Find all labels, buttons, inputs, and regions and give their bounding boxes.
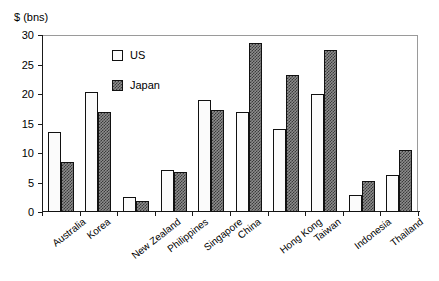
x-tick-mark (268, 212, 269, 216)
legend-entry-japan: Japan (112, 78, 160, 92)
bar-thailand-us (386, 175, 399, 212)
x-tick-mark (155, 212, 156, 216)
x-tick-mark (305, 212, 306, 216)
bar-indonesia-japan (362, 181, 375, 212)
y-tick-label: 10 (0, 148, 34, 159)
legend-swatch-us-icon (112, 50, 123, 61)
y-tick-label: 0 (0, 207, 34, 218)
bar-indonesia-us (349, 195, 362, 212)
bars-group (42, 35, 418, 212)
bar-singapore-us (198, 100, 211, 212)
bar-korea-us (85, 92, 98, 212)
x-tick-mark (230, 212, 231, 216)
legend-swatch-japan-icon (112, 80, 123, 91)
bar-australia-us (48, 132, 61, 212)
y-tick-label: 30 (0, 30, 34, 41)
legend-label-japan: Japan (130, 79, 160, 91)
bar-philippines-japan (174, 172, 187, 212)
bar-taiwan-us (311, 94, 324, 212)
x-tick-label: Thailand (388, 216, 425, 248)
bar-china-japan (249, 43, 262, 212)
bar-new-zealand-us (123, 197, 136, 212)
y-axis-title: $ (bns) (14, 11, 48, 24)
bar-china-us (236, 112, 249, 212)
bar-philippines-us (161, 170, 174, 212)
y-tick-label: 15 (0, 119, 34, 130)
y-tick-label: 5 (0, 178, 34, 189)
bar-australia-japan (61, 162, 74, 212)
legend-label-us: US (130, 49, 145, 61)
x-tick-mark (42, 212, 43, 216)
bar-thailand-japan (399, 150, 412, 212)
bar-taiwan-japan (324, 50, 337, 212)
x-tick-mark (380, 212, 381, 216)
x-tick-mark (192, 212, 193, 216)
bar-singapore-japan (211, 110, 224, 212)
y-tick-label: 25 (0, 60, 34, 71)
bar-new-zealand-japan (136, 201, 149, 212)
x-tick-label: Korea (85, 216, 113, 241)
bar-hong-kong-us (273, 129, 286, 212)
bar-korea-japan (98, 112, 111, 212)
bar-hong-kong-japan (286, 75, 299, 212)
x-tick-label: Indonesia (352, 216, 393, 251)
bar-chart: $ (bns) 051015202530 AustraliaKoreaNew Z… (0, 0, 439, 281)
x-tick-mark (343, 212, 344, 216)
x-tick-mark (117, 212, 118, 216)
y-tick-label: 20 (0, 89, 34, 100)
chart-legend: US Japan (112, 48, 160, 108)
legend-entry-us: US (112, 48, 160, 62)
x-tick-label: Australia (50, 216, 87, 249)
